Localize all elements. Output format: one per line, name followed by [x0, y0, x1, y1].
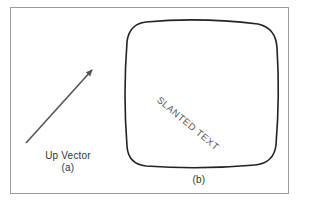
up-vector-arrow-icon — [26, 70, 92, 143]
caption-a: (a) — [28, 162, 108, 174]
caption-b: (b) — [174, 174, 224, 186]
rounded-window-shape — [125, 20, 278, 168]
up-vector-label: Up Vector — [28, 150, 108, 162]
